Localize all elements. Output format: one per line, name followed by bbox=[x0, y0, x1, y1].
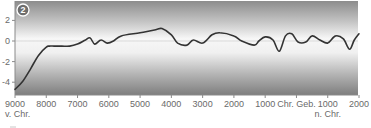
x-tick-label: Chr. Geb. bbox=[277, 99, 316, 109]
y-tick-label: 0 bbox=[5, 36, 10, 46]
x-tick-label: 4000 bbox=[161, 99, 181, 109]
x-tick-label: 5000 bbox=[130, 99, 150, 109]
y-axis-ticks: 20-2-4 bbox=[2, 15, 15, 87]
x-tick-label: 9000 bbox=[5, 99, 25, 109]
x-tick-label: 8000 bbox=[36, 99, 56, 109]
x-tick-label: 7000 bbox=[68, 99, 88, 109]
x-tick-label: 6000 bbox=[99, 99, 119, 109]
temperature-chart: 20-2-4 900080007000600050004000300020001… bbox=[0, 0, 371, 128]
x-tick-label: 3000 bbox=[193, 99, 213, 109]
y-tick-label: -2 bbox=[2, 57, 10, 67]
x-era-label: v. Chr. bbox=[5, 109, 30, 119]
x-tick-label: 2000 bbox=[224, 99, 244, 109]
x-tick-label: 1000 bbox=[318, 99, 338, 109]
plot-background bbox=[15, 1, 358, 95]
x-era-label: n. Chr. bbox=[314, 109, 341, 119]
x-axis-ticks: 900080007000600050004000300020001000Chr.… bbox=[5, 95, 369, 119]
chart-badge: 2 bbox=[17, 4, 29, 16]
badge-number: 2 bbox=[20, 5, 25, 15]
y-tick-label: -4 bbox=[2, 77, 10, 87]
x-tick-label: 2000 bbox=[349, 99, 369, 109]
x-tick-label: 1000 bbox=[255, 99, 275, 109]
y-tick-label: 2 bbox=[5, 15, 10, 25]
